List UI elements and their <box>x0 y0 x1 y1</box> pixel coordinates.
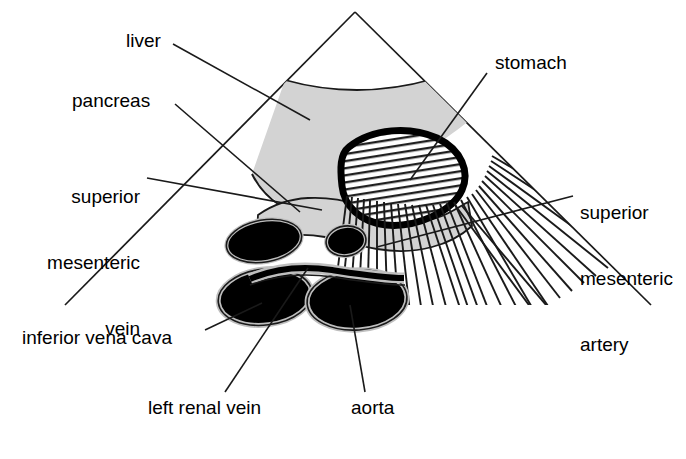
label-sma-line3: artery <box>580 334 686 356</box>
label-sma-line2: mesenteric <box>580 268 686 290</box>
label-liver: liver <box>126 30 161 52</box>
label-superior-mesenteric-artery: superior mesenteric artery <box>580 158 686 400</box>
label-pancreas: pancreas <box>72 90 150 112</box>
label-stomach: stomach <box>495 52 567 74</box>
inferior-vena-cava-upper <box>223 214 305 269</box>
figure-page: liver pancreas superior mesenteric vein … <box>0 0 686 459</box>
label-smv-line2: mesenteric <box>0 252 140 274</box>
label-smv-line1: superior <box>0 186 140 208</box>
label-left-renal-vein: left renal vein <box>148 397 261 419</box>
label-inferior-vena-cava: inferior vena cava <box>22 327 172 349</box>
label-sma-line1: superior <box>580 202 686 224</box>
label-aorta: aorta <box>351 397 394 419</box>
